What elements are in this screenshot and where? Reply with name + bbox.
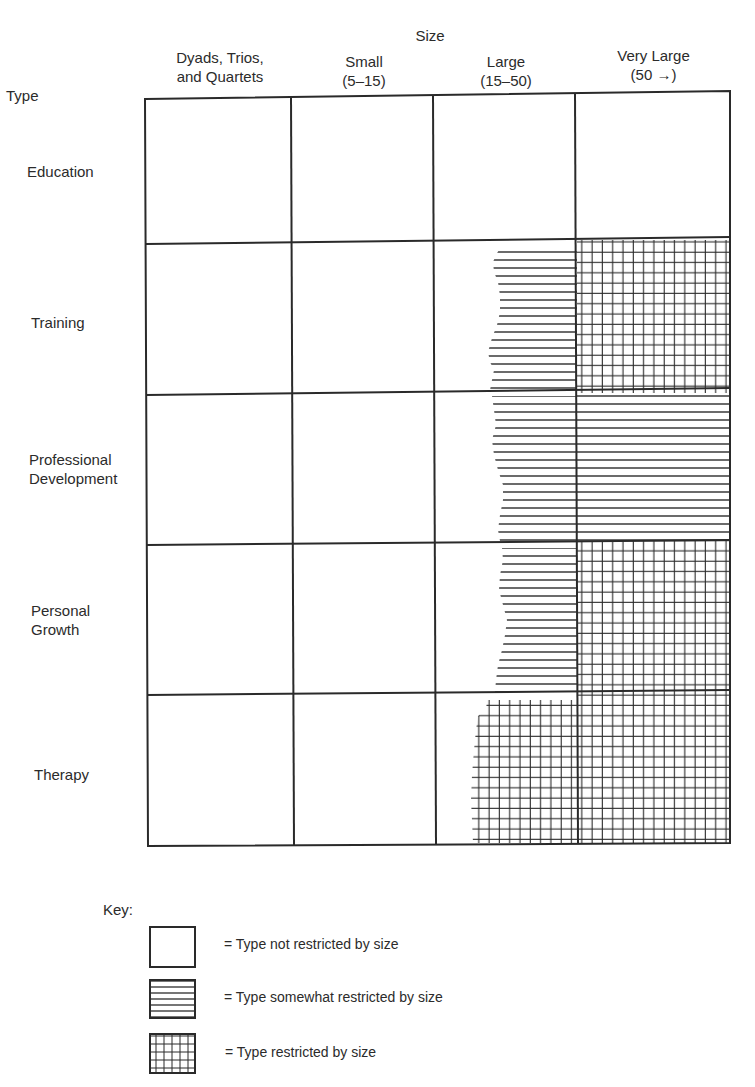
cell-professional-large	[492, 396, 577, 541]
cell-training-very-large	[577, 240, 730, 393]
cell-personal-growth-large	[495, 548, 577, 692]
key-title: Key:	[103, 900, 133, 919]
key-label-not-restricted: = Type not restricted by size	[224, 935, 398, 954]
key-label-somewhat-restricted: = Type somewhat restricted by size	[224, 988, 443, 1007]
cell-professional-very-large	[577, 394, 730, 542]
cell-therapy-large	[471, 700, 577, 843]
size-type-grid	[0, 0, 755, 1087]
key-swatch-somewhat-restricted	[150, 980, 195, 1018]
key-swatch-not-restricted	[150, 927, 195, 967]
key-label-restricted: = Type restricted by size	[225, 1043, 376, 1062]
cell-training-large	[488, 248, 577, 390]
cell-personal-growth-very-large	[577, 541, 730, 693]
key-swatch-restricted	[150, 1034, 195, 1073]
cell-therapy-very-large	[577, 693, 730, 843]
